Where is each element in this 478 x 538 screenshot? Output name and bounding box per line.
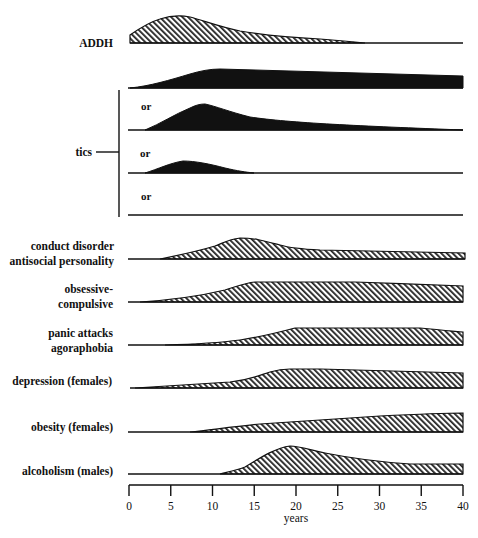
x-tick-label: 10	[207, 500, 219, 512]
obsessive-compulsive-area	[140, 282, 463, 302]
row-alcoholism: alcoholism (males)	[22, 446, 463, 478]
tics-group: tics or or or	[75, 69, 463, 217]
tics-pattern-2-area	[145, 104, 463, 130]
tics-pattern-3-area	[145, 161, 254, 173]
x-tick-label: 30	[374, 500, 386, 512]
label-or-3: or	[141, 190, 152, 202]
row-obesity: obesity (females)	[31, 413, 463, 434]
x-tick-label: 40	[457, 500, 469, 512]
svg-text:obesity (females): obesity (females)	[31, 421, 113, 434]
addh-area	[130, 16, 365, 43]
x-axis: 0510152025303540 years	[126, 485, 469, 525]
row-addh: ADDH	[79, 16, 463, 49]
svg-text:panic attacks: panic attacks	[48, 327, 113, 340]
depression-area	[135, 369, 463, 388]
row-depression: depression (females)	[12, 369, 463, 388]
svg-text:compulsive: compulsive	[58, 298, 113, 311]
x-tick-label: 15	[249, 500, 261, 512]
x-axis-label: years	[284, 512, 309, 525]
x-tick-label: 20	[290, 500, 302, 512]
x-tick-label: 25	[332, 500, 344, 512]
panic-attacks-area	[165, 328, 463, 345]
svg-text:obsessive-: obsessive-	[64, 283, 113, 295]
svg-text:antisocial personality: antisocial personality	[10, 255, 115, 268]
conduct-disorder-area	[160, 238, 465, 259]
label-tics: tics	[75, 146, 92, 158]
alcoholism-area	[220, 446, 463, 474]
obesity-area	[190, 413, 463, 432]
label-or-2: or	[140, 147, 151, 159]
svg-text:conduct disorder: conduct disorder	[31, 240, 114, 252]
row-obsessive-compulsive: obsessive- compulsive	[58, 282, 463, 311]
svg-text:alcoholism (males): alcoholism (males)	[22, 465, 113, 478]
age-onset-chart: ADDH tics or or or conduct disorder anti…	[0, 0, 478, 538]
svg-text:depression (females): depression (females)	[12, 375, 112, 388]
x-tick-label: 0	[126, 500, 132, 512]
label-addh: ADDH	[79, 37, 113, 49]
label-or-1: or	[141, 100, 152, 112]
x-tick-label: 5	[168, 500, 174, 512]
svg-text:agoraphobia: agoraphobia	[51, 342, 113, 355]
tics-pattern-1-area	[130, 69, 463, 88]
x-tick-label: 35	[416, 500, 428, 512]
row-panic-attacks: panic attacks agoraphobia	[48, 327, 463, 355]
row-conduct-disorder: conduct disorder antisocial personality	[10, 238, 465, 268]
